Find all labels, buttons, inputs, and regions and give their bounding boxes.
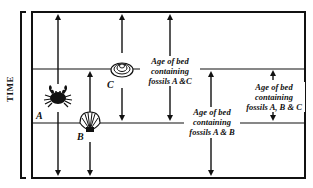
- scallop-shell-icon: [80, 112, 100, 132]
- fossil-c-letter: C: [107, 79, 114, 90]
- label-a-b-and-c-line2: containing: [243, 92, 305, 102]
- clam-shell-icon: [111, 63, 133, 77]
- label-a-and-c: Age of bed containing fossils A &C: [140, 56, 200, 86]
- label-a-b-and-c: Age of bed containing fossils A, B & C: [243, 82, 305, 112]
- fossil-a-letter: A: [36, 110, 43, 121]
- label-a-and-b: Age of bed containing fossils A & B: [184, 107, 240, 137]
- label-a-b-and-c-line1: Age of bed: [243, 82, 305, 92]
- label-a-and-b-line3: fossils A & B: [184, 127, 240, 137]
- label-a-b-and-c-line3: fossils A, B & C: [243, 102, 305, 112]
- label-a-and-b-line2: containing: [184, 117, 240, 127]
- fossil-age-diagram: TIME A B C Age of bed containing fossils…: [0, 0, 313, 188]
- crab-icon: [44, 85, 72, 107]
- label-a-and-c-line3: fossils A &C: [140, 76, 200, 86]
- label-a-and-b-line1: Age of bed: [184, 107, 240, 117]
- label-a-and-c-line1: Age of bed: [140, 56, 200, 66]
- label-a-and-c-line2: containing: [140, 66, 200, 76]
- time-axis-bracket: [21, 12, 26, 178]
- time-axis-label: TIME: [5, 75, 15, 103]
- fossil-b-letter: B: [77, 131, 84, 142]
